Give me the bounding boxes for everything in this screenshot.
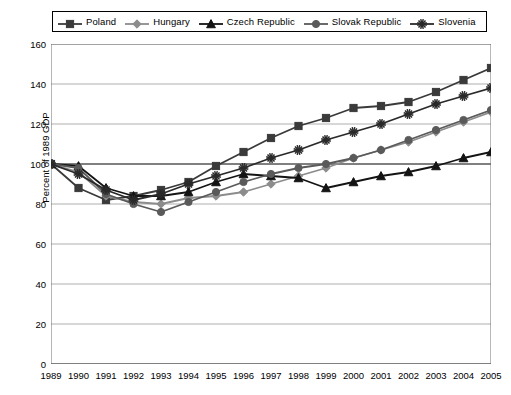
x-tick-label: 1997 bbox=[260, 370, 281, 381]
legend-marker-circle-icon bbox=[303, 16, 329, 28]
marker-square bbox=[295, 122, 302, 129]
legend-marker-triangle-icon bbox=[198, 16, 224, 28]
marker-square bbox=[377, 102, 384, 109]
marker-star bbox=[321, 135, 331, 145]
x-tick-label: 1998 bbox=[288, 370, 309, 381]
x-tick-label: 1994 bbox=[178, 370, 199, 381]
x-tick-label: 2003 bbox=[425, 370, 446, 381]
legend-marker-square-icon bbox=[57, 16, 83, 28]
y-tick-label: 80 bbox=[35, 199, 46, 210]
marker-circle bbox=[322, 160, 329, 167]
marker-diamond bbox=[157, 200, 165, 208]
marker-circle bbox=[267, 170, 274, 177]
y-tick-label: 160 bbox=[30, 39, 46, 50]
marker-square bbox=[350, 104, 357, 111]
series-line bbox=[51, 110, 491, 212]
y-tick-label: 40 bbox=[35, 279, 46, 290]
marker-square bbox=[322, 114, 329, 121]
marker-square bbox=[267, 134, 274, 141]
marker-circle bbox=[350, 154, 357, 161]
marker-square bbox=[405, 98, 412, 105]
legend-item-hungary[interactable]: Hungary bbox=[120, 12, 194, 31]
x-tick-label: 1996 bbox=[233, 370, 254, 381]
marker-circle bbox=[405, 136, 412, 143]
line-chart-canvas bbox=[51, 44, 491, 364]
marker-circle bbox=[460, 116, 467, 123]
marker-circle bbox=[212, 188, 219, 195]
marker-square bbox=[432, 88, 439, 95]
marker-circle bbox=[240, 178, 247, 185]
legend-label: Czech Republic bbox=[227, 16, 295, 27]
legend-label: Hungary bbox=[153, 16, 190, 27]
marker-square bbox=[66, 20, 73, 27]
y-tick-label: 140 bbox=[30, 79, 46, 90]
y-tick-label: 60 bbox=[35, 239, 46, 250]
x-tick-label: 2001 bbox=[370, 370, 391, 381]
legend-label: Poland bbox=[86, 16, 116, 27]
marker-star bbox=[431, 99, 441, 109]
marker-circle bbox=[185, 198, 192, 205]
y-tick-label: 100 bbox=[30, 159, 46, 170]
x-tick-label: 2002 bbox=[398, 370, 419, 381]
marker-square bbox=[240, 148, 247, 155]
plot-area: Percent of 1989 GDP 02040608010012014016… bbox=[51, 44, 491, 364]
marker-circle bbox=[432, 126, 439, 133]
legend-label: Slovenia bbox=[438, 16, 475, 27]
marker-diamond bbox=[267, 180, 275, 188]
marker-square bbox=[75, 184, 82, 191]
marker-circle bbox=[377, 146, 384, 153]
legend-item-poland[interactable]: Poland bbox=[53, 12, 120, 31]
legend-marker-star-icon bbox=[409, 16, 435, 28]
x-tick-label: 2000 bbox=[343, 370, 364, 381]
marker-diamond bbox=[239, 188, 247, 196]
x-tick-label: 1992 bbox=[123, 370, 144, 381]
x-tick-label: 2005 bbox=[480, 370, 501, 381]
x-tick-label: 1995 bbox=[205, 370, 226, 381]
marker-triangle bbox=[487, 148, 491, 156]
chart-page: PolandHungaryCzech RepublicSlovak Republ… bbox=[0, 0, 511, 395]
chart-legend: PolandHungaryCzech RepublicSlovak Republ… bbox=[52, 11, 487, 32]
marker-star bbox=[349, 127, 359, 137]
marker-circle bbox=[487, 106, 491, 113]
marker-star bbox=[294, 145, 304, 155]
marker-star bbox=[459, 91, 469, 101]
y-tick-label: 20 bbox=[35, 319, 46, 330]
marker-diamond bbox=[133, 19, 141, 27]
x-tick-label: 1991 bbox=[95, 370, 116, 381]
legend-label: Slovak Republic bbox=[332, 16, 402, 27]
marker-circle bbox=[295, 164, 302, 171]
legend-item-czech-republic[interactable]: Czech Republic bbox=[194, 12, 299, 31]
x-tick-label: 1999 bbox=[315, 370, 336, 381]
marker-star bbox=[266, 153, 276, 163]
marker-circle bbox=[157, 208, 164, 215]
marker-square bbox=[487, 64, 491, 71]
marker-circle bbox=[312, 20, 319, 27]
marker-star bbox=[486, 83, 491, 93]
y-tick-label: 120 bbox=[30, 119, 46, 130]
legend-item-slovenia[interactable]: Slovenia bbox=[405, 12, 479, 31]
marker-square bbox=[460, 76, 467, 83]
x-tick-label: 1993 bbox=[150, 370, 171, 381]
marker-square bbox=[212, 162, 219, 169]
x-tick-label: 2004 bbox=[453, 370, 474, 381]
x-tick-label: 1989 bbox=[40, 370, 61, 381]
marker-star bbox=[404, 109, 414, 119]
y-tick-label: 0 bbox=[41, 359, 46, 370]
legend-item-slovak-republic[interactable]: Slovak Republic bbox=[299, 12, 406, 31]
legend-marker-diamond-icon bbox=[124, 16, 150, 28]
y-axis-title: Percent of 1989 GDP bbox=[40, 78, 51, 238]
x-tick-label: 1990 bbox=[68, 370, 89, 381]
